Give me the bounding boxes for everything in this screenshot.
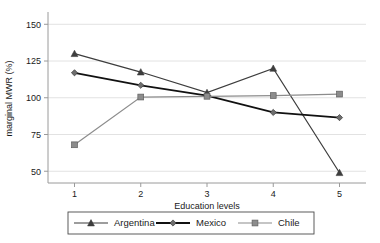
y-tick-label: 125 [26,56,41,66]
x-tick-label: 4 [271,189,276,199]
x-tick-label: 5 [337,189,342,199]
chart-legend: ArgentinaMexicoChile [68,212,314,234]
x-tick-label: 3 [204,189,209,199]
x-axis-title: Education levels [174,201,240,211]
legend-label: Argentina [114,217,155,228]
legend-label: Chile [278,217,300,228]
x-tick-label: 2 [138,189,143,199]
data-point-marker-square [204,93,210,99]
data-point-marker-square [72,142,78,148]
data-point-marker-square [337,91,343,97]
y-tick-label: 75 [31,130,41,140]
x-tick-label: 1 [72,189,77,199]
chart-container: 5075100125150 12345 marginal MWR (%) Edu… [0,0,380,243]
y-tick-label: 100 [26,93,41,103]
y-tick-label: 50 [31,167,41,177]
line-chart: 5075100125150 12345 marginal MWR (%) Edu… [0,0,380,243]
legend-label: Mexico [196,217,226,228]
data-point-marker-square [252,220,258,226]
y-axis-title: marginal MWR (%) [4,60,14,136]
data-point-marker-square [138,94,144,100]
data-point-marker-square [270,93,276,99]
y-tick-label: 150 [26,20,41,30]
